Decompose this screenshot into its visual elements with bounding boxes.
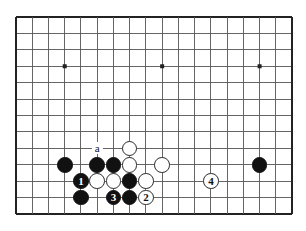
stone-black[interactable]: [57, 157, 73, 173]
go-board-diagram: 1324 a: [0, 0, 306, 231]
stone-white[interactable]: [89, 173, 105, 189]
stone-black[interactable]: [73, 190, 89, 206]
move-number-label: 1: [78, 176, 84, 187]
stone-white[interactable]: [122, 157, 138, 173]
stone-black-move-1[interactable]: 1: [73, 173, 89, 189]
move-number-label: 2: [143, 192, 149, 203]
stone-black[interactable]: [89, 157, 105, 173]
point-marker-a[interactable]: a: [92, 142, 103, 154]
star-point: [160, 64, 164, 68]
stone-white[interactable]: [154, 157, 170, 173]
move-number-label: 4: [208, 176, 214, 187]
move-number-label: 3: [111, 192, 117, 203]
star-point: [63, 64, 67, 68]
stone-white[interactable]: [106, 173, 122, 189]
stone-white[interactable]: [138, 173, 154, 189]
star-point: [258, 64, 262, 68]
stone-black[interactable]: [252, 157, 268, 173]
stone-black[interactable]: [106, 157, 122, 173]
stone-white-move-4[interactable]: 4: [203, 173, 219, 189]
stone-white-move-2[interactable]: 2: [138, 190, 154, 206]
